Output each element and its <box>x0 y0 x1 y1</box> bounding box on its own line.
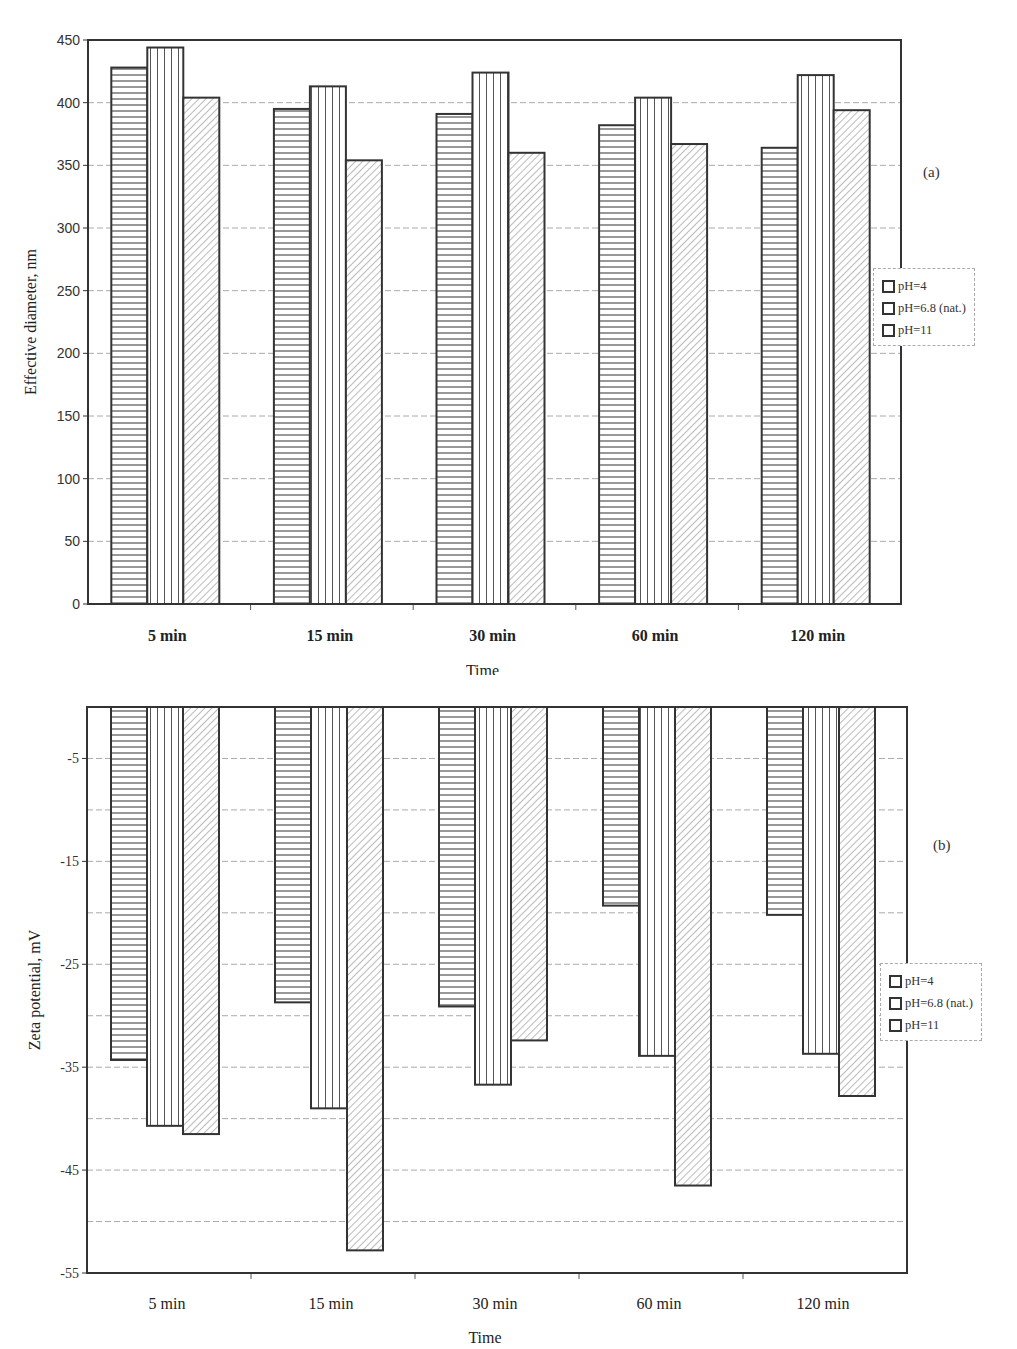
bar-ph-6-8-nat--120-min <box>803 707 839 1054</box>
bar-ph-11-15-min <box>347 707 383 1250</box>
bar-ph-4-30-min <box>439 707 475 1006</box>
bar-ph-11-60-min <box>675 707 711 1186</box>
legend-swatch-icon <box>889 1019 902 1032</box>
svg-text:60 min: 60 min <box>637 1295 682 1312</box>
bar-ph-4-5-min <box>111 707 147 1060</box>
svg-text:200: 200 <box>57 345 81 361</box>
svg-text:5 min: 5 min <box>149 1295 186 1312</box>
bar-ph-6-8-nat--5-min <box>147 707 183 1126</box>
legend-item-ph6-8: pH=6.8 (nat.) <box>882 297 966 319</box>
svg-text:100: 100 <box>57 471 81 487</box>
svg-text:-25: -25 <box>60 957 79 972</box>
svg-text:-35: -35 <box>60 1060 79 1075</box>
svg-text:120 min: 120 min <box>790 627 845 644</box>
bar-ph-4-60-min <box>603 707 639 906</box>
svg-text:Zeta potential, mV: Zeta potential, mV <box>26 929 44 1050</box>
svg-text:30 min: 30 min <box>469 627 516 644</box>
svg-text:Effective diameter, nm: Effective diameter, nm <box>22 248 39 395</box>
legend-label: pH=4 <box>898 279 927 294</box>
svg-text:-5: -5 <box>67 751 79 766</box>
svg-text:450: 450 <box>57 32 81 48</box>
svg-text:15 min: 15 min <box>307 627 354 644</box>
svg-text:350: 350 <box>57 157 81 173</box>
bar-ph-11-15-min <box>346 160 382 604</box>
bar-ph-4-120-min <box>762 148 798 604</box>
svg-text:60 min: 60 min <box>632 627 679 644</box>
bar-ph-11-5-min <box>183 707 219 1134</box>
svg-text:-55: -55 <box>60 1266 79 1281</box>
legend-label: pH=6.8 (nat.) <box>905 996 973 1011</box>
bar-ph-11-120-min <box>839 707 875 1096</box>
bar-ph-6-8-nat--15-min <box>310 86 346 604</box>
legend-item-ph4: pH=4 <box>889 970 973 992</box>
legend-swatch-icon <box>882 302 895 315</box>
legend-b: pH=4 pH=6.8 (nat.) pH=11 <box>880 963 982 1041</box>
bar-ph-4-60-min <box>599 125 635 604</box>
legend-item-ph6-8: pH=6.8 (nat.) <box>889 992 973 1014</box>
legend-item-ph11: pH=11 <box>889 1014 973 1036</box>
legend-a: pH=4 pH=6.8 (nat.) pH=11 <box>873 268 975 346</box>
panel-label-a: (a) <box>923 164 940 181</box>
svg-text:30 min: 30 min <box>473 1295 518 1312</box>
legend-item-ph11: pH=11 <box>882 319 966 341</box>
legend-label: pH=6.8 (nat.) <box>898 301 966 316</box>
legend-label: pH=11 <box>898 323 932 338</box>
bar-ph-11-30-min <box>509 153 545 604</box>
effective-diameter-chart: 0501001502002503003504004505 min15 min30… <box>0 0 1017 675</box>
svg-text:250: 250 <box>57 283 81 299</box>
bar-ph-6-8-nat--60-min <box>635 98 671 604</box>
svg-text:Time: Time <box>468 1329 501 1346</box>
bar-ph-6-8-nat--5-min <box>147 48 183 604</box>
bar-ph-4-15-min <box>274 109 310 604</box>
legend-swatch-icon <box>889 997 902 1010</box>
legend-swatch-icon <box>889 975 902 988</box>
bar-ph-11-120-min <box>834 110 870 604</box>
bar-ph-6-8-nat--30-min <box>473 73 509 604</box>
bar-ph-4-5-min <box>111 68 147 604</box>
bar-ph-11-30-min <box>511 707 547 1040</box>
bar-ph-6-8-nat--120-min <box>798 75 834 604</box>
bar-ph-6-8-nat--60-min <box>639 707 675 1056</box>
svg-text:5 min: 5 min <box>148 627 187 644</box>
bar-ph-6-8-nat--15-min <box>311 707 347 1108</box>
legend-swatch-icon <box>882 324 895 337</box>
svg-text:120 min: 120 min <box>797 1295 850 1312</box>
bar-ph-4-15-min <box>275 707 311 1002</box>
svg-text:50: 50 <box>64 533 80 549</box>
svg-text:Time: Time <box>466 662 499 675</box>
bar-ph-4-120-min <box>767 707 803 915</box>
bar-ph-11-5-min <box>183 98 219 604</box>
panel-label-b: (b) <box>933 837 951 854</box>
svg-text:-45: -45 <box>60 1163 79 1178</box>
svg-text:15 min: 15 min <box>309 1295 354 1312</box>
bar-ph-6-8-nat--30-min <box>475 707 511 1085</box>
bar-ph-4-30-min <box>437 114 473 604</box>
svg-text:0: 0 <box>72 596 80 612</box>
svg-text:300: 300 <box>57 220 81 236</box>
svg-text:-15: -15 <box>60 854 79 869</box>
zeta-potential-chart: -5-15-25-35-45-555 min15 min30 min60 min… <box>0 675 1017 1349</box>
legend-swatch-icon <box>882 280 895 293</box>
bar-ph-11-60-min <box>671 144 707 604</box>
legend-label: pH=11 <box>905 1018 939 1033</box>
legend-label: pH=4 <box>905 974 934 989</box>
legend-item-ph4: pH=4 <box>882 275 966 297</box>
svg-text:150: 150 <box>57 408 81 424</box>
svg-text:400: 400 <box>57 95 81 111</box>
